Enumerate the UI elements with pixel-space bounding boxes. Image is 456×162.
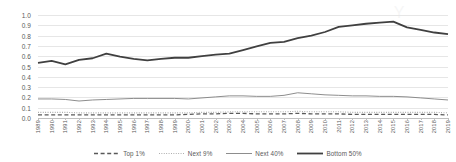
y-axis-tick-label: 0.3 xyxy=(22,84,31,91)
legend-label: Bottom 50% xyxy=(326,150,361,157)
x-axis-tick-label: 2009 xyxy=(308,120,314,133)
series-line xyxy=(38,113,448,115)
x-axis-tick-label: 2011 xyxy=(336,120,342,133)
legend-label: Top 1% xyxy=(123,150,145,157)
x-axis-tick-label: 1998 xyxy=(158,120,164,133)
line-chart: Y 0.00.10.20.30.40.50.60.70.80.91.0 1989… xyxy=(0,0,456,162)
x-axis-tick-label: 2003 xyxy=(226,120,232,133)
x-axis-tick-label: 2007 xyxy=(281,120,287,133)
x-axis-tick-label: 2017 xyxy=(418,120,424,133)
legend-item[interactable]: Next 9% xyxy=(159,150,213,157)
x-axis-tick-label: 1993 xyxy=(90,120,96,133)
x-axis-tick-label: 2014 xyxy=(377,120,383,133)
x-axis-tick-label: 2018 xyxy=(431,120,437,133)
x-axis-tick-label: 1992 xyxy=(76,120,82,133)
x-axis-tick-label: 1989 xyxy=(35,120,41,133)
legend-item[interactable]: Top 1% xyxy=(94,150,145,157)
x-axis-tick-label: 1997 xyxy=(144,120,150,133)
x-axis-tick-label: 2010 xyxy=(322,120,328,133)
x-axis-tick-label: 2015 xyxy=(390,120,396,133)
x-axis-tick-label: 2001 xyxy=(199,120,205,133)
x-axis-tick-label: 2000 xyxy=(185,120,191,133)
y-axis-tick-label: 0.2 xyxy=(22,94,31,101)
x-axis-tick-label: 1990 xyxy=(49,120,55,133)
x-axis-tick-label: 1994 xyxy=(103,120,109,133)
x-axis-tick-label: 2019 xyxy=(445,120,451,133)
x-axis-tick-label: 1991 xyxy=(62,120,68,133)
y-axis-tick-label: 0.9 xyxy=(22,22,31,29)
x-axis-tick-label: 2002 xyxy=(213,120,219,133)
legend-swatch-solid-thin-icon xyxy=(226,150,252,157)
legend-item[interactable]: Bottom 50% xyxy=(297,150,361,157)
series-lines xyxy=(38,15,448,118)
y-axis-tick-label: 1.0 xyxy=(22,12,31,19)
y-axis-tick-label: 0.5 xyxy=(22,63,31,70)
x-axis-tick-label: 1995 xyxy=(117,120,123,133)
x-axis-tick-label: 2013 xyxy=(363,120,369,133)
series-line xyxy=(38,93,448,101)
x-axis-tick-label: 1996 xyxy=(131,120,137,133)
y-axis: 0.00.10.20.30.40.50.60.70.80.91.0 xyxy=(0,15,34,118)
legend-swatch-dotted-icon xyxy=(159,150,185,157)
x-axis-tick-label: 2012 xyxy=(349,120,355,133)
y-axis-tick-label: 0.7 xyxy=(22,42,31,49)
y-axis-tick-label: 0.8 xyxy=(22,32,31,39)
y-axis-tick-label: 0.4 xyxy=(22,73,31,80)
y-axis-tick-label: 0.6 xyxy=(22,53,31,60)
y-axis-tick-label: 0.0 xyxy=(22,115,31,122)
legend-label: Next 9% xyxy=(188,150,213,157)
x-axis-tick-label: 1999 xyxy=(172,120,178,133)
x-axis-tick-label: 2005 xyxy=(254,120,260,133)
series-line xyxy=(38,111,448,113)
legend-item[interactable]: Next 40% xyxy=(226,150,283,157)
x-axis-tick-label: 2016 xyxy=(404,120,410,133)
legend-swatch-solid-thick-icon xyxy=(297,150,323,157)
legend-swatch-dashed-icon xyxy=(94,150,120,157)
x-axis: 1989199019911992199319941995199619971998… xyxy=(38,120,448,144)
x-axis-tick-label: 2006 xyxy=(267,120,273,133)
series-line xyxy=(38,22,448,65)
x-axis-tick-label: 2004 xyxy=(240,120,246,133)
plot-area xyxy=(38,15,448,118)
legend-label: Next 40% xyxy=(255,150,283,157)
y-axis-tick-label: 0.1 xyxy=(22,104,31,111)
chart-legend: Top 1%Next 9%Next 40%Bottom 50% xyxy=(0,146,456,160)
x-axis-tick-label: 2008 xyxy=(295,120,301,133)
